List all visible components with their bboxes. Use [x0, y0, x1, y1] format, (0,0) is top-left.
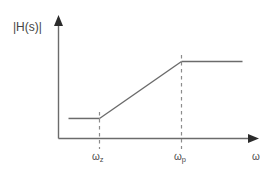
omega-p-subscript: p	[182, 155, 186, 164]
omega-z-subscript: z	[100, 155, 104, 164]
x-tick-label-omega-p: ωp	[174, 152, 186, 162]
x-axis-label: ω	[252, 152, 260, 162]
magnitude-response-figure: |H(s)| ω ωz ωp	[0, 0, 278, 178]
curve-rising-slope	[100, 61, 182, 118]
omega-glyph: ω	[92, 151, 100, 162]
x-tick-label-omega-z: ωz	[92, 152, 104, 162]
x-axis-arrowhead-icon	[248, 134, 259, 143]
y-axis-arrowhead-icon	[54, 15, 63, 26]
omega-glyph: ω	[174, 151, 182, 162]
y-axis-label: |H(s)|	[13, 21, 42, 33]
